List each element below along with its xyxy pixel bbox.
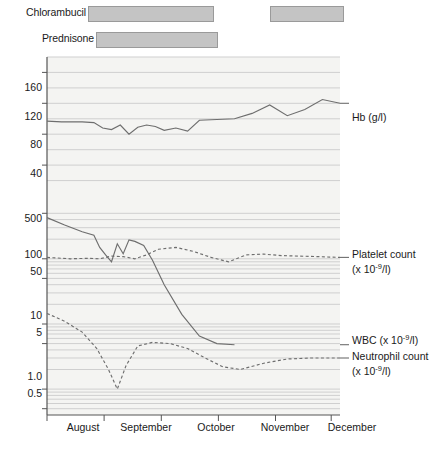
series-label-hb-text: Hb (g/l) bbox=[352, 111, 386, 123]
y-tick-label-count-0-5: 0.5 bbox=[0, 387, 42, 399]
leader-line-group bbox=[340, 103, 349, 358]
figure-root: Chlorambucil Prednisone 160 120 80 40 50… bbox=[0, 0, 438, 458]
y-tick-label-count-5: 5 bbox=[0, 326, 42, 338]
series-label-platelet-line1: Platelet count bbox=[352, 248, 416, 260]
y-tick-label-count-500: 500 bbox=[0, 212, 42, 224]
series-label-hb: Hb (g/l) bbox=[352, 111, 386, 124]
y-tick-group bbox=[42, 72, 47, 408]
series-label-neutrophil-line2: (x 10-9/l) bbox=[352, 365, 391, 377]
x-tick-label-october: October bbox=[180, 421, 252, 433]
series-label-wbc: WBC (x 10-9/l) bbox=[352, 331, 418, 346]
y-tick-label-hb-160: 160 bbox=[0, 81, 42, 93]
y-tick-label-count-10: 10 bbox=[0, 309, 42, 321]
plot-background bbox=[47, 57, 340, 415]
y-tick-label-count-1: 1.0 bbox=[0, 370, 42, 382]
y-tick-label-hb-80: 80 bbox=[0, 138, 42, 150]
y-tick-label-count-100: 100 bbox=[0, 248, 42, 260]
y-tick-label-count-50: 50 bbox=[0, 265, 42, 277]
y-tick-label-hb-120: 120 bbox=[0, 110, 42, 122]
series-label-neutrophil: Neutrophil count (x 10-9/l) bbox=[352, 350, 428, 378]
series-label-platelet: Platelet count (x 10-9/l) bbox=[352, 248, 416, 276]
series-label-neutrophil-line1: Neutrophil count bbox=[352, 350, 428, 362]
x-tick-label-september: September bbox=[106, 421, 186, 433]
series-label-platelet-line2: (x 10-9/l) bbox=[352, 263, 391, 275]
x-tick-label-december: December bbox=[312, 421, 392, 433]
y-tick-label-hb-40: 40 bbox=[0, 167, 42, 179]
chart-svg bbox=[0, 0, 438, 458]
series-label-wbc-text: WBC (x 10-9/l) bbox=[352, 334, 418, 346]
